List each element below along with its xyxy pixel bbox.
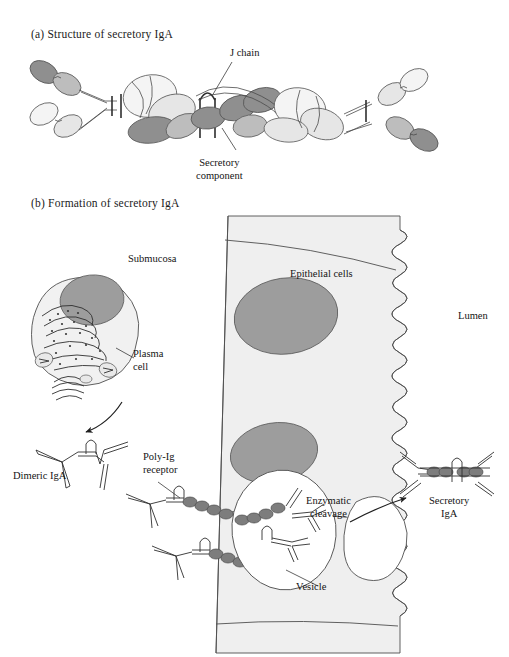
label-plasma-cell-line1: Plasma — [133, 347, 163, 360]
label-j-chain: J chain — [230, 47, 259, 60]
dimeric-iga-molecule — [36, 440, 128, 490]
label-plasma-cell: Plasma cell — [133, 347, 163, 373]
label-secretory-component-line2: component — [196, 169, 243, 182]
label-secretory-iga: Secretory IgA — [429, 494, 469, 520]
label-enzymatic-cleavage: Enzymatic cleavage — [306, 494, 351, 520]
plasma-cell — [32, 272, 139, 400]
fab-arm-left-lower — [26, 98, 86, 142]
label-poly-ig-receptor-line2: receptor — [143, 463, 177, 476]
iga-receptor-complex-binding — [126, 486, 233, 528]
label-submucosa: Submucosa — [128, 253, 176, 266]
label-secretory-iga-line1: Secretory — [429, 494, 469, 507]
fab-arm-right-lower — [382, 112, 442, 156]
poly-ig-leader-line — [158, 482, 180, 498]
label-plasma-cell-line2: cell — [133, 360, 163, 373]
label-secretory-component: Secretory component — [196, 156, 243, 182]
panel-a-iga-dimer-diagram: .dk { fill:#8f8f8f; stroke:#555; stroke-… — [0, 38, 509, 188]
arrow-plasma-to-dimeric — [86, 402, 122, 432]
label-dimeric-iga: Dimeric IgA — [13, 470, 66, 483]
hinge-right — [344, 100, 372, 134]
panel-b-title: (b) Formation of secretory IgA — [31, 197, 179, 209]
label-enzymatic-cleavage-line2: cleavage — [306, 507, 351, 520]
label-poly-ig-receptor-line1: Poly-Ig — [143, 450, 177, 463]
panel-b-transcytosis-diagram: .epi { fill:#efefef; stroke:#4f4f4f; str… — [0, 212, 509, 657]
label-poly-ig-receptor: Poly-Ig receptor — [143, 450, 177, 476]
label-secretory-component-line1: Secretory — [196, 156, 243, 169]
label-enzymatic-cleavage-line1: Enzymatic — [306, 494, 351, 507]
figure-secretory-iga: (a) Structure of secretory IgA .dk { fil… — [0, 0, 509, 657]
fab-arm-right-upper — [374, 64, 432, 110]
j-chain-leader-line — [212, 62, 232, 96]
secretory-vesicle — [80, 375, 92, 383]
secretory-iga-domains — [427, 467, 483, 477]
secretory-iga-lumen — [400, 452, 494, 497]
fc-region-left — [119, 70, 204, 146]
label-epithelial-cells: Epithelial cells — [290, 268, 353, 281]
label-lumen: Lumen — [458, 310, 488, 323]
label-vesicle: Vesicle — [296, 581, 326, 594]
label-secretory-iga-line2: IgA — [429, 507, 469, 520]
fab-arm-left-upper — [26, 56, 85, 100]
hinge-left — [79, 90, 121, 130]
